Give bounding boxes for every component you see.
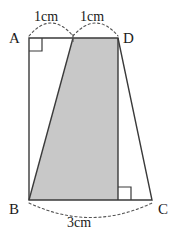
right-angle-marker-n (118, 187, 131, 200)
figure-canvas (0, 0, 176, 243)
vertex-label-d: D (123, 31, 134, 46)
geometry-figure: A B C D 1cm 1cm 3cm (0, 0, 176, 243)
right-angle-marker-a (29, 38, 42, 51)
measure-label-am: 1cm (34, 10, 58, 24)
measure-arc-md (73, 23, 118, 36)
vertex-label-b: B (9, 202, 19, 217)
measure-label-md: 1cm (80, 10, 104, 24)
measure-arc-am (29, 23, 73, 36)
vertex-label-a: A (9, 31, 20, 46)
shaded-quadrilateral (29, 38, 118, 200)
measure-label-bc: 3cm (67, 216, 91, 230)
vertex-label-c: C (158, 202, 168, 217)
